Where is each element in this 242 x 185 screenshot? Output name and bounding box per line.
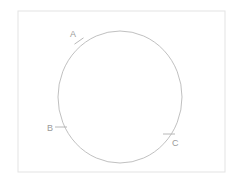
point-label-b: B: [47, 123, 53, 133]
diagram-border: [18, 11, 225, 172]
point-label-a: A: [70, 29, 76, 39]
figure-canvas: ABC: [0, 0, 242, 185]
circle-diagram: ABC: [0, 0, 242, 185]
point-label-c: C: [172, 138, 179, 148]
